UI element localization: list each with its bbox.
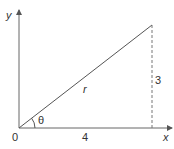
- y-axis-label: y: [5, 9, 13, 21]
- triangle-diagram: y x 0 4 3 r θ: [0, 0, 174, 149]
- origin-label: 0: [12, 131, 18, 143]
- hypotenuse-line: [19, 25, 152, 128]
- angle-label: θ: [38, 114, 44, 126]
- angle-arc: [32, 118, 35, 128]
- adjacent-label: 4: [82, 131, 88, 143]
- hypotenuse-label: r: [83, 83, 88, 95]
- x-axis-label: x: [162, 131, 169, 143]
- opposite-label: 3: [155, 74, 161, 86]
